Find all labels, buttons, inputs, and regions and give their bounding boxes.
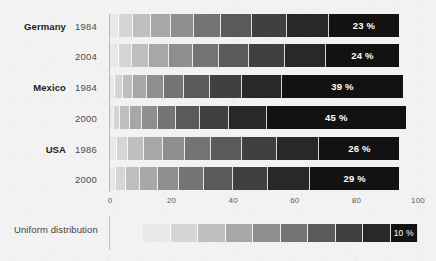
decile-segment <box>110 14 119 37</box>
uniform-distribution-bar: 10 % <box>143 224 418 242</box>
decile-segment <box>221 14 252 37</box>
country-label: USA <box>46 144 66 155</box>
top-decile-segment: 45 % <box>267 106 406 129</box>
decile-segment <box>119 44 133 67</box>
decile-segment <box>164 75 185 98</box>
uniform-decile-segment <box>363 224 391 242</box>
decile-segment <box>176 106 199 129</box>
decile-segment <box>116 167 126 190</box>
year-label: 2004 <box>75 51 100 62</box>
decile-segment <box>219 44 249 67</box>
decile-segment <box>287 14 328 37</box>
decile-segment <box>110 137 117 160</box>
decile-segment <box>204 167 233 190</box>
decile-segment <box>142 106 157 129</box>
top-decile-value-label: 29 % <box>344 173 366 184</box>
top-decile-value-label: 23 % <box>353 20 375 31</box>
decile-segment <box>140 167 158 190</box>
country-label: Germany <box>24 21 66 32</box>
uniform-decile-segment <box>281 224 309 242</box>
decile-segment <box>147 75 164 98</box>
decile-segment <box>171 14 194 37</box>
decile-segment <box>163 137 185 160</box>
decile-segment <box>115 75 123 98</box>
top-decile-value-label: 26 % <box>348 143 370 154</box>
uniform-decile-segment <box>143 224 171 242</box>
top-decile-value-label: 24 % <box>351 50 373 61</box>
uniform-decile-segment <box>308 224 336 242</box>
decile-segment <box>128 137 143 160</box>
uniform-top-decile-segment: 10 % <box>391 224 419 242</box>
decile-segment <box>117 137 129 160</box>
stacked-bar: 26 % <box>110 137 418 160</box>
row-label-germany-2004: 2004 <box>0 44 100 68</box>
year-label: 1986 <box>75 144 100 155</box>
decile-segment <box>133 14 150 37</box>
uniform-value-label: 10 % <box>394 228 414 238</box>
uniform-decile-segment <box>198 224 226 242</box>
stacked-bar: 39 % <box>110 75 418 98</box>
decile-segment <box>249 44 284 67</box>
x-axis-tick-label: 40 <box>229 196 238 205</box>
year-label: 1984 <box>75 21 100 32</box>
decile-segment <box>252 14 287 37</box>
decile-segment <box>123 75 134 98</box>
decile-segment <box>133 75 147 98</box>
decile-segment <box>119 14 133 37</box>
x-axis-tick-label: 100 <box>411 196 425 205</box>
decile-segment <box>132 44 149 67</box>
decile-segment <box>268 167 310 190</box>
uniform-decile-segment <box>171 224 199 242</box>
uniform-distribution-label: Uniform distribution <box>14 224 98 235</box>
row-label-mexico-1984: Mexico 1984 <box>0 75 100 99</box>
x-axis-tick-label: 60 <box>290 196 299 205</box>
uniform-decile-segment <box>253 224 281 242</box>
decile-segment <box>149 44 169 67</box>
decile-segment <box>151 14 171 37</box>
decile-segment <box>211 137 241 160</box>
vertical-axis-rule <box>109 14 110 192</box>
decile-segment <box>242 137 278 160</box>
decile-segment <box>158 167 179 190</box>
uniform-decile-segment <box>226 224 254 242</box>
top-decile-segment: 26 % <box>319 137 399 160</box>
top-decile-value-label: 45 % <box>325 112 347 123</box>
uniform-decile-segment <box>336 224 364 242</box>
decile-segment <box>130 106 142 129</box>
decile-segment <box>120 106 130 129</box>
uniform-axis-rule <box>109 216 110 250</box>
row-label-germany-1984: Germany 1984 <box>0 14 100 38</box>
decile-segment <box>242 75 282 98</box>
row-label-usa-2000: 2000 <box>0 167 100 191</box>
x-axis-tick-label: 80 <box>352 196 361 205</box>
decile-distribution-chart: Germany 1984 2004 Mexico 1984 2000 USA 1… <box>0 0 436 261</box>
decile-segment <box>285 44 326 67</box>
country-label: Mexico <box>33 82 66 93</box>
decile-segment <box>114 106 121 129</box>
decile-segment <box>179 167 204 190</box>
top-decile-segment: 23 % <box>329 14 400 37</box>
year-label: 2000 <box>75 174 100 185</box>
decile-segment <box>144 137 163 160</box>
decile-segment <box>185 137 211 160</box>
decile-segment <box>110 44 119 67</box>
row-label-usa-1986: USA 1986 <box>0 137 100 161</box>
decile-segment <box>126 167 140 190</box>
decile-segment <box>193 44 219 67</box>
x-axis-tick-label: 20 <box>167 196 176 205</box>
stacked-bar: 23 % <box>110 14 418 37</box>
decile-segment <box>194 14 221 37</box>
decile-segment <box>200 106 230 129</box>
year-label: 2000 <box>75 113 100 124</box>
stacked-bar: 24 % <box>110 44 418 67</box>
decile-segment <box>169 44 192 67</box>
top-decile-segment: 24 % <box>326 44 400 67</box>
top-decile-segment: 39 % <box>282 75 402 98</box>
top-decile-segment: 29 % <box>310 167 399 190</box>
row-label-mexico-2000: 2000 <box>0 106 100 130</box>
x-axis: 020406080100 <box>110 196 418 210</box>
decile-segment <box>233 167 267 190</box>
stacked-bar: 29 % <box>110 167 418 190</box>
year-label: 1984 <box>75 82 100 93</box>
x-axis-tick-label: 0 <box>108 196 113 205</box>
